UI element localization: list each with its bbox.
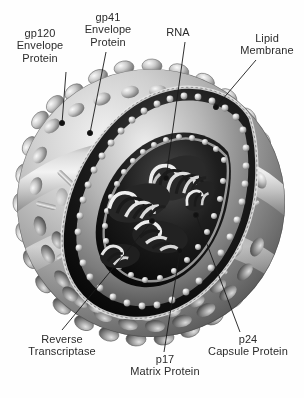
label-p17-line2: Matrix Protein xyxy=(112,365,218,377)
label-rna-line1: RNA xyxy=(156,26,200,38)
label-p24-capsule-protein: p24 Capsule Protein xyxy=(196,333,300,358)
label-gp120-envelope-protein: gp120 Envelope Protein xyxy=(2,27,78,64)
hiv-virion-figure: gp120 Envelope Protein gp41 Envelope Pro… xyxy=(0,0,304,398)
label-gp120-line3: Protein xyxy=(2,52,78,64)
label-p24-line1: p24 xyxy=(196,333,300,345)
label-rt-line2: Transcriptase xyxy=(6,345,118,357)
label-lipid-membrane: Lipid Membrane xyxy=(232,32,302,57)
label-gp41-line3: Protein xyxy=(74,36,142,48)
label-gp41-envelope-protein: gp41 Envelope Protein xyxy=(74,11,142,48)
label-gp120-line2: Envelope xyxy=(2,39,78,51)
label-rt-line1: Reverse xyxy=(6,333,118,345)
label-lipid-line2: Membrane xyxy=(232,44,302,56)
label-p24-line2: Capsule Protein xyxy=(196,345,300,357)
label-gp120-line1: gp120 xyxy=(2,27,78,39)
label-gp41-line1: gp41 xyxy=(74,11,142,23)
label-gp41-line2: Envelope xyxy=(74,23,142,35)
label-rna: RNA xyxy=(156,26,200,38)
label-lipid-line1: Lipid xyxy=(232,32,302,44)
label-reverse-transcriptase: Reverse Transcriptase xyxy=(6,333,118,358)
